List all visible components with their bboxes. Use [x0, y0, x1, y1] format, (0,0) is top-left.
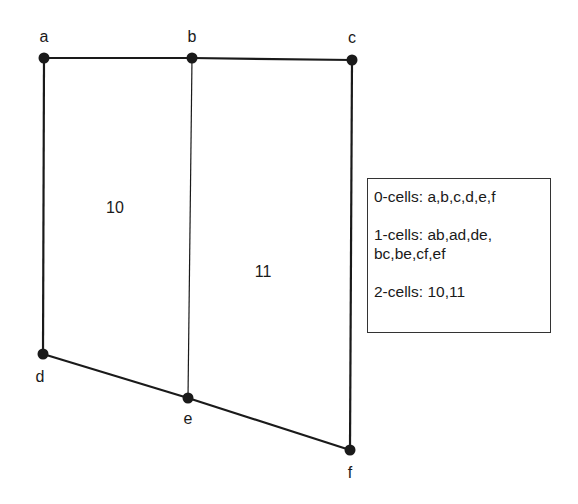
vertex-label-b: b	[188, 29, 197, 45]
face-label-11: 11	[255, 264, 272, 280]
vertex-e	[183, 393, 194, 404]
legend-1-cells: 1-cells: ab,ad,de,bc,be,cf,ef	[374, 225, 550, 263]
vertex-label-f: f	[348, 465, 352, 481]
vertex-f	[345, 445, 356, 456]
edge-be	[188, 58, 192, 398]
vertex-label-c: c	[348, 30, 356, 46]
edge-cf	[350, 60, 352, 450]
vertex-c	[347, 55, 358, 66]
vertex-label-a: a	[40, 29, 49, 45]
edge-ad	[43, 58, 44, 354]
vertex-b	[187, 53, 198, 64]
legend-0-cells: 0-cells: a,b,c,d,e,f	[374, 187, 550, 206]
vertex-d	[38, 349, 49, 360]
vertex-label-e: e	[184, 411, 193, 427]
legend-box: 0-cells: a,b,c,d,e,f 1-cells: ab,ad,de,b…	[367, 178, 551, 333]
edge-bc	[192, 58, 352, 60]
legend-2-cells: 2-cells: 10,11	[374, 282, 550, 301]
edge-ef	[188, 398, 350, 450]
face-label-10: 10	[106, 200, 124, 216]
cell-complex-diagram: abcdef1011 0-cells: a,b,c,d,e,f 1-cells:…	[0, 0, 578, 504]
vertex-label-d: d	[36, 369, 45, 385]
edge-de	[43, 354, 188, 398]
vertex-a	[39, 53, 50, 64]
